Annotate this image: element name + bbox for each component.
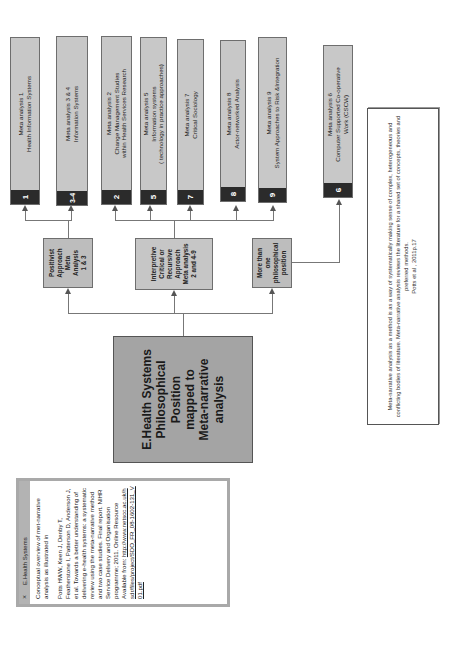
definition-quote-box: Meta-narrative analysis as a method is a… [367,108,439,425]
meta-title: Meta analysis 2 [105,92,113,135]
meta-number-badge: 5 [141,190,166,204]
diagram-canvas: E.Health Systems Philosophical Position … [0,0,449,649]
meta-title: Meta analysis 3 & 4 [64,87,72,141]
connector [190,211,191,221]
arrow-icon [233,205,239,211]
meta-title: Meta analysis 5 [142,93,150,136]
meta-subtitle: Actor-networked Analysis [233,79,241,148]
approach-positivist: Positivist Approach Meta Analysis 1 & 3 [43,238,93,288]
connector [115,220,274,221]
meta-analysis-5: 5 Meta analysis 5 Information systems ( … [140,37,167,205]
connector [339,205,340,263]
note-reference: Potts HWW, Keen J, Denby T, Featherstone… [56,488,127,599]
meta-number-badge: 3-4 [57,191,87,205]
arrow-icon [22,205,28,211]
connector [115,211,116,221]
meta-title: Meta analysis 9 [265,92,273,135]
meta-number-badge: 2 [102,190,131,204]
connector [71,211,72,221]
meta-analysis-9: 9 Meta analysis 9 System Approaches to R… [258,37,287,203]
approach-more-than-one: More than one philosophical position [252,238,292,288]
meta-title: Meta analysis 7 [183,94,191,137]
meta-title: Meta analysis 6 [326,93,334,136]
meta-number-badge: 1 [11,190,39,204]
connector [150,211,151,221]
meta-analysis-1: 1 Meta analysis 1 Health Information Sys… [10,37,40,205]
meta-subtitle: ( technology in practice approaches) [157,64,165,164]
meta-analysis-7: 7 Meta analysis 7 Critical Sociology [177,39,204,205]
note-body: Conceptual overview of met-narrative ana… [30,481,148,604]
connector [292,262,339,263]
meta-subtitle: Work (CSCW) [342,95,350,134]
meta-title: Meta analysis 1 [17,93,25,136]
meta-subtitle: within Health Services Research [120,69,128,158]
connector [174,221,175,238]
arrow-icon [187,205,193,211]
meta-analysis-8: 8 Meta analysis 8 Actor-networked Analys… [220,40,246,202]
approach-interpretive: Interpretive Critical or Recursive Appro… [135,238,213,290]
arrow-icon [112,205,118,211]
connector-central-stem [183,313,184,336]
meta-number-badge: 7 [178,190,203,204]
connector-to-interpretive [174,296,175,314]
meta-subtitle: Information systems [150,86,158,141]
connector-approach-bus [68,313,272,314]
close-icon[interactable]: × [21,593,29,601]
meta-subtitle: Critical Sociology [191,91,199,138]
arrow-icon [171,290,177,296]
meta-subtitle: System Approaches to Risk &Integration [273,58,281,169]
meta-subtitle: Information Systems [72,86,80,142]
connector [25,220,72,221]
note-titlebar[interactable]: × E.Health Systems [19,481,30,604]
meta-subtitle: Health Information Systems [25,76,33,152]
meta-analysis-3-4: 3-4 Meta analysis 3 & 4 Information Syst… [56,36,88,206]
note-title: E.Health Systems [22,537,28,585]
quote-text: Meta-narrative analysis as a method is a… [387,115,410,418]
connector-to-positivist [68,294,69,314]
connector-to-more-than-one [272,294,273,314]
meta-title: Meta analysis 8 [225,93,233,136]
connector [236,211,237,221]
meta-number-badge: 9 [259,188,286,202]
connector [25,211,26,221]
note-intro: Conceptual overview of met-narrative ana… [34,486,50,599]
meta-analysis-2: 2 Meta analysis 2 Change Management Stud… [101,36,132,205]
meta-number-badge: 6 [324,183,352,197]
meta-subtitle: Change Management Studies [113,73,121,155]
arrow-icon [270,205,276,211]
arrow-icon [147,205,153,211]
meta-subtitle: Computer Supported Co-operative [334,67,342,162]
central-node: E.Health Systems Philosophical Position … [113,336,253,463]
arrow-icon [336,199,342,205]
sticky-note: × E.Health Systems Conceptual overview o… [16,478,230,607]
meta-number-badge: 8 [221,187,245,201]
arrow-icon [269,288,275,294]
arrow-icon [65,288,71,294]
quote-citation: Potts et al , 2011p.17 [411,115,419,418]
connector [68,221,69,238]
meta-analysis-6: 6 Meta analysis 6 Computer Supported Co-… [323,45,353,198]
connector [273,211,274,221]
